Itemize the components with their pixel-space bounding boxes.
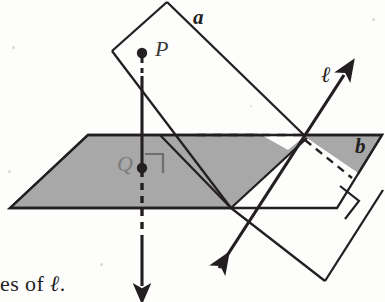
point-p xyxy=(137,48,147,58)
caption-fragment: es of ℓ. xyxy=(0,271,66,297)
label-point-q: Q xyxy=(117,153,133,175)
label-point-p: P xyxy=(155,38,168,60)
geometry-figure: a b P Q ℓ es of ℓ. xyxy=(0,0,385,302)
caption-line-symbol: ℓ xyxy=(50,271,60,296)
label-plane-a: a xyxy=(193,7,204,28)
label-line-l: ℓ xyxy=(321,64,330,86)
point-q xyxy=(137,163,147,173)
caption-suffix: . xyxy=(60,271,66,296)
caption-prefix: es of xyxy=(0,271,50,296)
label-plane-b: b xyxy=(355,136,366,157)
figure-canvas xyxy=(0,0,385,302)
